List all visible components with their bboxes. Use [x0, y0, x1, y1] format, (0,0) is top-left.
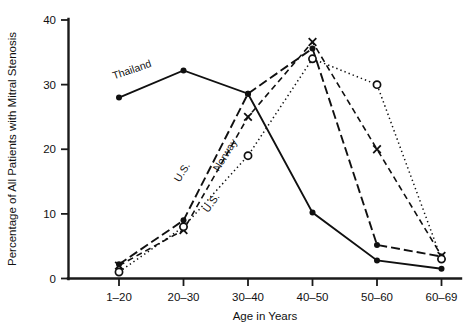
- series-lines: [119, 42, 442, 272]
- data-point-marker: [115, 268, 122, 275]
- x-tick-label: 40–50: [297, 291, 329, 303]
- data-point-marker: [309, 38, 317, 46]
- data-point-marker: [439, 266, 445, 272]
- y-axis-tick-labels: 010203040: [43, 14, 56, 285]
- data-point-marker: [374, 257, 380, 263]
- data-point-marker: [374, 242, 380, 248]
- data-point-marker: [310, 210, 316, 216]
- data-point-marker: [180, 223, 187, 230]
- y-tick-label: 10: [43, 208, 56, 220]
- data-point-marker: [373, 81, 380, 88]
- mitral-stenosis-age-line-chart: 010203040 Percentage of All Patients wit…: [0, 0, 470, 327]
- data-point-marker: [244, 152, 251, 159]
- data-point-marker: [438, 256, 445, 263]
- data-point-marker: [116, 95, 122, 101]
- x-axis-tick-labels: 1–2020–3030–4040–5050–6060–69: [106, 291, 457, 303]
- x-tick-label: 60–69: [426, 291, 458, 303]
- x-tick-label: 1–20: [106, 291, 132, 303]
- y-axis: 010203040 Percentage of All Patients wit…: [6, 14, 69, 285]
- x-tick-label: 50–60: [361, 291, 393, 303]
- y-tick-label: 20: [43, 143, 56, 155]
- chart-figure: 010203040 Percentage of All Patients wit…: [0, 0, 470, 327]
- x-axis-title: Age in Years: [233, 310, 298, 322]
- y-axis-title: Percentage of All Patients with Mitral S…: [6, 32, 18, 266]
- data-point-marker: [310, 45, 316, 51]
- data-point-marker: [181, 67, 187, 73]
- y-tick-label: 40: [43, 14, 56, 26]
- series-inline-labels: ThailandU.S.NorwayU.S.: [111, 57, 240, 214]
- series-inline-label: Norway: [210, 136, 239, 173]
- y-tick-label: 30: [43, 79, 56, 91]
- series-line: [119, 59, 442, 272]
- y-tick-label: 0: [50, 273, 56, 285]
- data-point-marker: [309, 55, 316, 62]
- data-point-marker: [373, 145, 381, 153]
- data-point-marker: [245, 91, 251, 97]
- x-axis: 1–2020–3030–4040–5050–6060–69 Age in Yea…: [68, 279, 461, 323]
- x-tick-label: 20–30: [168, 291, 200, 303]
- x-tick-label: 30–40: [232, 291, 264, 303]
- series-inline-label: Thailand: [111, 57, 153, 82]
- series-inline-label: U.S.: [171, 160, 192, 184]
- series-line: [119, 48, 442, 264]
- data-point-marker: [244, 113, 252, 121]
